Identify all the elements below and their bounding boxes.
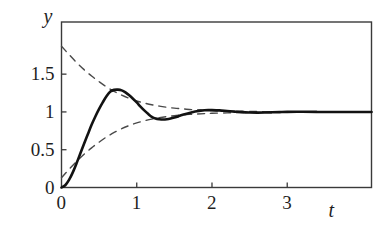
series-upper-envelope [62,46,372,112]
plot-series [62,46,372,187]
y-axis-label: y [44,6,53,26]
chart-figure: 1.5 1 0.5 0 0 1 2 3 y t [0,0,388,232]
x-axis-label: t [329,200,335,220]
plot-frame [62,22,372,188]
y-tick-label-1-5: 1.5 [0,64,55,83]
series-lower-envelope [62,112,372,178]
series-step-response [62,90,372,188]
y-tick-label-0-5: 0.5 [0,140,55,159]
axis-ticks [62,74,288,187]
y-tick-label-1: 1 [0,102,55,121]
